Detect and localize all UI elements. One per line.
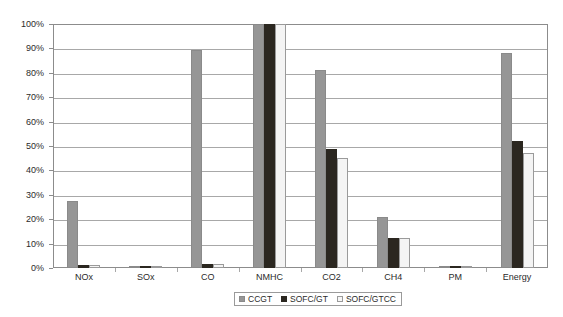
legend-label: CCGT bbox=[248, 294, 272, 304]
bar bbox=[129, 266, 140, 268]
bar bbox=[337, 158, 348, 268]
y-tick-label: 100% bbox=[0, 19, 44, 29]
bar bbox=[315, 70, 326, 268]
y-tick-label: 50% bbox=[0, 141, 44, 151]
y-tick-label: 30% bbox=[0, 190, 44, 200]
y-tick-label: 70% bbox=[0, 92, 44, 102]
bar-group bbox=[239, 24, 301, 268]
bar-group bbox=[486, 24, 548, 268]
legend-label: SOFC/GT bbox=[290, 294, 328, 304]
x-tick-label: CO2 bbox=[301, 272, 363, 282]
bar-group bbox=[115, 24, 177, 268]
x-tick-label: CH4 bbox=[362, 272, 424, 282]
legend-item: CCGT bbox=[239, 294, 272, 304]
bar-group bbox=[424, 24, 486, 268]
bars-layer bbox=[53, 24, 548, 268]
bar bbox=[461, 266, 472, 268]
y-tick-mark bbox=[49, 268, 53, 269]
bar bbox=[78, 265, 89, 268]
bar bbox=[439, 266, 450, 268]
legend-label: SOFC/GTCC bbox=[346, 294, 396, 304]
bar bbox=[191, 50, 202, 268]
bar bbox=[275, 24, 286, 268]
bar bbox=[450, 266, 461, 268]
bar-group bbox=[301, 24, 363, 268]
x-tick-label: SOx bbox=[115, 272, 177, 282]
x-tick-label: PM bbox=[424, 272, 486, 282]
legend-item: SOFC/GTCC bbox=[337, 294, 396, 304]
bar bbox=[388, 238, 399, 269]
bar bbox=[512, 141, 523, 268]
y-tick-label: 80% bbox=[0, 68, 44, 78]
bar bbox=[253, 24, 264, 268]
bar bbox=[89, 265, 100, 268]
x-tick-label: NMHC bbox=[239, 272, 301, 282]
bar bbox=[151, 266, 162, 268]
bar-group bbox=[362, 24, 424, 268]
x-tick-label: Energy bbox=[486, 272, 548, 282]
bar bbox=[140, 266, 151, 268]
legend-swatch-icon bbox=[281, 296, 287, 302]
bar bbox=[202, 264, 213, 268]
bar bbox=[213, 264, 224, 268]
bar-chart: Relative to conventional system 0%10%20%… bbox=[0, 0, 563, 317]
y-tick-label: 40% bbox=[0, 165, 44, 175]
bar bbox=[67, 201, 78, 268]
bar bbox=[399, 238, 410, 269]
legend-swatch-icon bbox=[337, 296, 343, 302]
bar bbox=[523, 153, 534, 268]
bar bbox=[501, 53, 512, 268]
chart-legend: CCGTSOFC/GTSOFC/GTCC bbox=[234, 292, 402, 306]
x-tick-label: NOx bbox=[53, 272, 115, 282]
bar bbox=[264, 24, 275, 268]
bar-group bbox=[177, 24, 239, 268]
x-tick-label: CO bbox=[177, 272, 239, 282]
legend-item: SOFC/GT bbox=[281, 294, 328, 304]
y-tick-label: 10% bbox=[0, 239, 44, 249]
legend-swatch-icon bbox=[239, 296, 245, 302]
bar bbox=[326, 149, 337, 268]
bar-group bbox=[53, 24, 115, 268]
y-tick-label: 60% bbox=[0, 117, 44, 127]
y-tick-label: 90% bbox=[0, 43, 44, 53]
y-tick-label: 20% bbox=[0, 214, 44, 224]
bar bbox=[377, 217, 388, 268]
y-tick-label: 0% bbox=[0, 263, 44, 273]
